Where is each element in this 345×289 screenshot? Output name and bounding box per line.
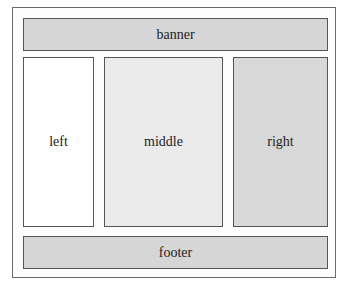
middle-label: middle (144, 134, 183, 150)
left-label: left (49, 134, 68, 150)
footer-label: footer (159, 245, 192, 261)
footer-region: footer (23, 236, 328, 269)
right-label: right (267, 134, 293, 150)
banner-region: banner (23, 18, 328, 51)
right-column: right (233, 57, 328, 227)
banner-label: banner (156, 27, 194, 43)
middle-column: middle (104, 57, 223, 227)
left-column: left (23, 57, 94, 227)
